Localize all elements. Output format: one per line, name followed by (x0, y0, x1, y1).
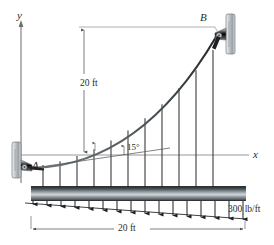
b-reference-connector (215, 27, 218, 32)
cable (34, 37, 216, 168)
load-envelope-line (25, 203, 246, 219)
vertical-dimension-label: 20 ft (80, 79, 98, 89)
load-intensity-label: 300 lb/ft (228, 205, 260, 215)
horizontal-dimension-line (31, 216, 245, 229)
cable-hangers (43, 50, 213, 187)
angle-label: 15° (127, 143, 140, 152)
y-axis-label: y (17, 10, 22, 21)
horizontal-dimension-label: 20 ft (118, 224, 136, 234)
figure-canvas: y x A B 20 ft 20 ft 15° 300 lb/ft (0, 0, 274, 245)
loaded-beam (31, 187, 246, 201)
point-b-label: B (200, 12, 207, 23)
point-a-label: A (32, 160, 39, 171)
support-b (212, 14, 235, 54)
x-axis-label: x (253, 149, 258, 160)
support-a (12, 142, 44, 178)
tangent-angle-line (33, 146, 170, 168)
